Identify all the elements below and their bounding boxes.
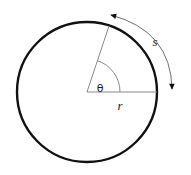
radius-label: r: [117, 98, 123, 113]
angle-label: θ: [97, 82, 104, 95]
arc-length-diagram: s r θ: [0, 0, 191, 175]
geometry-canvas: s r θ: [0, 0, 191, 175]
arc-length-label: s: [152, 34, 157, 49]
arc-length-arrow: [111, 15, 172, 89]
